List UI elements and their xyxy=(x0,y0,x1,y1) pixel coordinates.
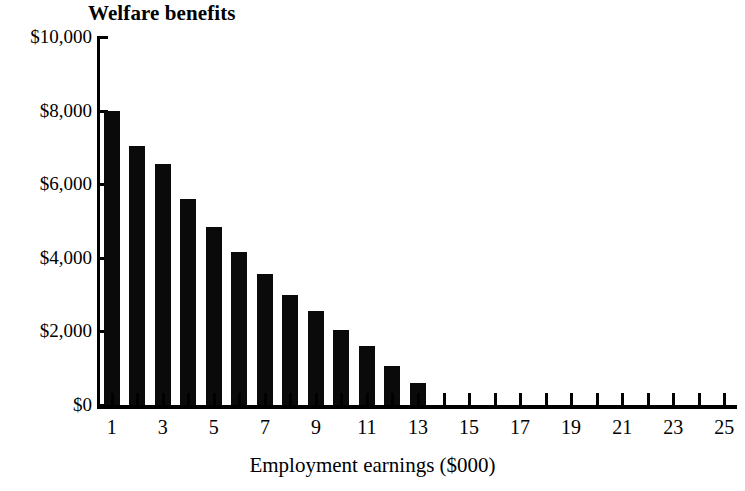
x-tick-4 xyxy=(187,393,190,405)
chart-title: Welfare benefits xyxy=(88,0,236,26)
x-axis-line xyxy=(97,405,737,409)
x-tick-3 xyxy=(162,393,165,405)
y-tick-label: $4,000 xyxy=(6,248,92,267)
y-tick-label: $2,000 xyxy=(6,321,92,340)
x-tick-14 xyxy=(443,393,446,405)
x-tick-label: 11 xyxy=(357,415,376,439)
x-tick-21 xyxy=(621,393,624,405)
x-tick-label: 1 xyxy=(107,415,117,439)
x-tick-15 xyxy=(468,393,471,405)
x-tick-label: 23 xyxy=(663,415,683,439)
bar xyxy=(308,311,324,405)
x-tick-label: 9 xyxy=(311,415,321,439)
bar xyxy=(257,274,273,405)
bar xyxy=(155,164,171,405)
x-tick-12 xyxy=(391,393,394,405)
chart-figure: Welfare benefits $0$2,000$4,000$6,000$8,… xyxy=(0,0,745,491)
x-tick-13 xyxy=(417,393,420,405)
x-tick-20 xyxy=(596,393,599,405)
x-tick-label: 3 xyxy=(158,415,168,439)
x-tick-9 xyxy=(315,393,318,405)
x-tick-11 xyxy=(366,393,369,405)
x-tick-label: 17 xyxy=(510,415,530,439)
bar xyxy=(282,295,298,405)
bar xyxy=(129,146,145,405)
x-tick-19 xyxy=(570,393,573,405)
y-tick-label: $10,000 xyxy=(6,27,92,46)
x-tick-16 xyxy=(494,393,497,405)
x-tick-22 xyxy=(647,393,650,405)
x-tick-24 xyxy=(698,393,701,405)
x-tick-17 xyxy=(519,393,522,405)
x-tick-label: 21 xyxy=(612,415,632,439)
x-axis-title: Employment earnings ($000) xyxy=(0,452,745,478)
x-tick-label: 15 xyxy=(459,415,479,439)
y-tick-label: $0 xyxy=(6,395,92,414)
x-axis-ticks xyxy=(99,393,737,405)
x-tick-6 xyxy=(238,393,241,405)
x-tick-label: 7 xyxy=(260,415,270,439)
x-tick-25 xyxy=(723,393,726,405)
y-tick-label: $8,000 xyxy=(6,101,92,120)
x-axis-tick-labels: 135791113151719212325 xyxy=(0,415,745,443)
x-tick-7 xyxy=(264,393,267,405)
x-tick-2 xyxy=(136,393,139,405)
bar xyxy=(206,227,222,405)
bar-series xyxy=(99,37,737,405)
bar xyxy=(104,111,120,405)
bar xyxy=(180,199,196,405)
x-tick-label: 25 xyxy=(714,415,734,439)
x-tick-1 xyxy=(111,393,114,405)
x-tick-label: 5 xyxy=(209,415,219,439)
x-tick-8 xyxy=(289,393,292,405)
x-tick-18 xyxy=(545,393,548,405)
x-tick-5 xyxy=(213,393,216,405)
x-tick-23 xyxy=(672,393,675,405)
x-tick-label: 19 xyxy=(561,415,581,439)
y-tick-label: $6,000 xyxy=(6,174,92,193)
x-tick-label: 13 xyxy=(408,415,428,439)
x-tick-10 xyxy=(340,393,343,405)
bar xyxy=(231,252,247,405)
